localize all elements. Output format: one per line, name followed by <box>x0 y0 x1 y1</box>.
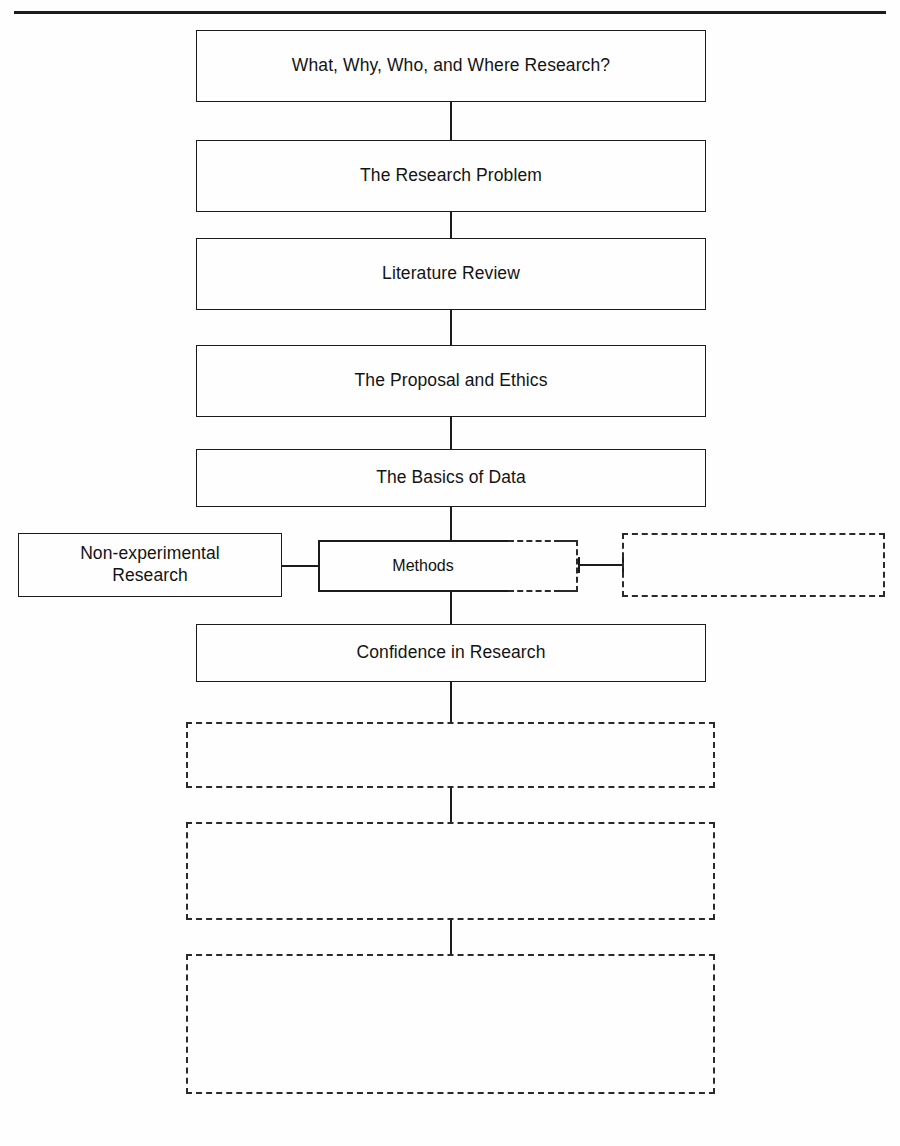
connector-nonexperimental-methods <box>282 565 318 567</box>
node-dashed-placeholder-1[interactable] <box>186 722 715 788</box>
node-label: Methods <box>318 540 528 592</box>
connector-n2-n3 <box>450 212 452 238</box>
node-confidence-in-research[interactable]: Confidence in Research <box>196 624 706 682</box>
connector-n5-methods <box>450 507 452 542</box>
node-dashed-placeholder-methods-right[interactable] <box>622 533 885 597</box>
node-non-experimental-research[interactable]: Non-experimental Research <box>18 533 282 597</box>
node-dashed-placeholder-2[interactable] <box>186 822 715 920</box>
connector-n3-n4 <box>450 310 452 345</box>
node-the-basics-of-data[interactable]: The Basics of Data <box>196 449 706 507</box>
connector-methods-dashedbox <box>578 564 624 566</box>
node-dashed-placeholder-3[interactable] <box>186 954 715 1094</box>
methods-right-bracket-bottom <box>556 590 578 592</box>
node-label: The Proposal and Ethics <box>355 370 548 392</box>
connector-confidence-dashed1 <box>450 682 452 724</box>
connector-n1-n2 <box>450 102 452 140</box>
node-label: Literature Review <box>382 263 520 285</box>
node-the-proposal-and-ethics[interactable]: The Proposal and Ethics <box>196 345 706 417</box>
header-rule <box>14 11 886 14</box>
connector-n4-n5 <box>450 417 452 449</box>
connector-methods-confidence <box>450 592 452 624</box>
connector-dashed2-dashed3 <box>450 920 452 956</box>
node-label: The Research Problem <box>360 165 542 187</box>
node-label: Non-experimental Research <box>80 543 220 587</box>
node-the-research-problem[interactable]: The Research Problem <box>196 140 706 212</box>
node-label: What, Why, Who, and Where Research? <box>292 55 610 77</box>
methods-right-bracket-top <box>556 540 578 542</box>
node-methods[interactable]: Methods <box>318 540 578 592</box>
node-literature-review[interactable]: Literature Review <box>196 238 706 310</box>
node-label: Confidence in Research <box>357 642 546 664</box>
node-what-why-who-where-research[interactable]: What, Why, Who, and Where Research? <box>196 30 706 102</box>
connector-dashed1-dashed2 <box>450 788 452 824</box>
node-label: The Basics of Data <box>376 467 526 489</box>
flowchart-page: What, Why, Who, and Where Research? The … <box>0 0 900 1146</box>
